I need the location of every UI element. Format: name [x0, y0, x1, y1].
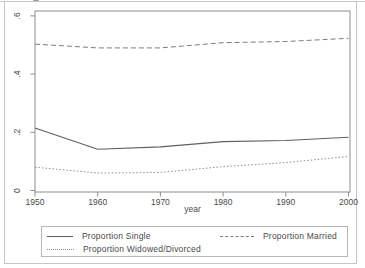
legend-label-married: Proportion Married: [263, 231, 337, 241]
legend-label-widowed-divorced: Proportion Widowed/Divorced: [83, 244, 201, 254]
dashed-line-swatch-icon: [220, 236, 254, 237]
y-tick-label: 0: [12, 188, 22, 193]
x-tick-label: 1980: [214, 197, 233, 207]
figure: 0.2.4.6195019601970198019902000 year Pro…: [0, 0, 365, 268]
series-line-solid: [35, 128, 349, 149]
x-tick-label: 1950: [26, 197, 45, 207]
legend-item-widowed-divorced: Proportion Widowed/Divorced: [47, 243, 201, 255]
x-tick-label: 1960: [88, 197, 107, 207]
y-tick-label: .6: [12, 12, 22, 19]
legend-item-single: Proportion Single: [47, 230, 151, 242]
dotted-line-swatch-icon: [47, 249, 74, 250]
x-tick-label: 2000: [339, 197, 358, 207]
solid-line-swatch-icon: [47, 236, 73, 237]
plot-area-border: [35, 11, 350, 192]
series-line-dashed: [35, 38, 349, 48]
x-axis-title: year: [184, 204, 201, 214]
legend-label-single: Proportion Single: [82, 231, 151, 241]
y-tick-label: .4: [12, 70, 22, 77]
x-tick-label: 1990: [276, 197, 295, 207]
chart-legend: Proportion Single Proportion Married Pro…: [41, 226, 348, 257]
y-tick-label: .2: [12, 128, 22, 135]
legend-item-married: Proportion Married: [220, 230, 337, 242]
x-tick-label: 1970: [151, 197, 170, 207]
series-line-dotted: [35, 156, 349, 173]
